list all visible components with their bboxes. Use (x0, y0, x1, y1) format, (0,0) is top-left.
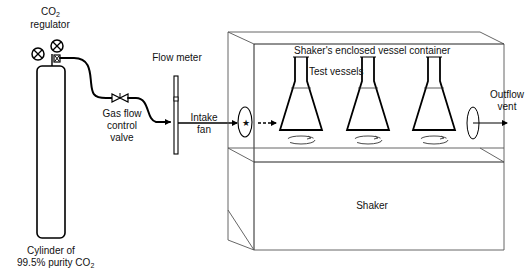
gauge-icon-left (32, 48, 44, 60)
regulator-label: CO2 (41, 6, 60, 18)
cylinder-label-2: 99.5% purity CO2 (17, 257, 94, 269)
enclosure-label: Shaker's enclosed vessel container (294, 45, 451, 56)
regulator-label-2: regulator (30, 19, 70, 30)
shaker-enclosure (228, 32, 504, 250)
flow-meter (174, 76, 178, 154)
intake-fan-label-2: fan (197, 124, 211, 135)
cylinder-label-1: Cylinder of (27, 245, 75, 256)
valve-label-3: valve (110, 132, 134, 143)
rotation-arrow-icon (287, 136, 315, 144)
intake-fan-icon: ★ (238, 107, 252, 137)
valve-label-2: control (107, 120, 137, 131)
rotation-arrow-icon (354, 136, 382, 144)
intake-fan-label-1: Intake (190, 112, 218, 123)
valve-label-1: Gas flow (103, 108, 143, 119)
gauge-icon-right (51, 40, 63, 52)
gas-tube-upper (60, 58, 112, 98)
test-vessel-3 (413, 57, 455, 144)
flow-meter-label: Flow meter (152, 52, 202, 63)
co2-regulator (32, 40, 63, 66)
outflow-vent-label-2: vent (498, 101, 517, 112)
shaker-label: Shaker (356, 200, 388, 211)
co2-cylinder (37, 66, 65, 238)
outflow-vent-label-1: Outflow (490, 89, 525, 100)
svg-text:★: ★ (242, 118, 250, 128)
gas-flow-control-valve-icon (112, 93, 128, 102)
rotation-arrow-icon (420, 136, 448, 144)
test-vessels-label: Test vessels (309, 66, 363, 77)
co2-apparatus-diagram: ★ CO2 regulator (0, 0, 528, 279)
